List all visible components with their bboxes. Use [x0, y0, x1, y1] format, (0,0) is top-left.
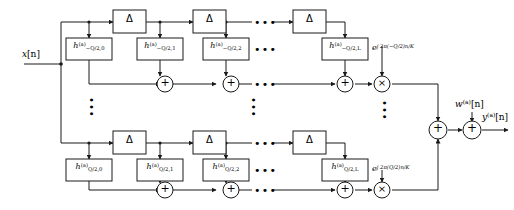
ellipsis-bot-delayline: ••• — [254, 137, 277, 150]
filter-label-bot-1: h(a)Q/2,1 — [137, 163, 183, 172]
filter-label-bot-2: h(a)Q/2,2 — [203, 163, 249, 172]
adder-glyph-bot-1: + — [157, 183, 173, 194]
adder-glyph-bot-2: + — [223, 183, 239, 194]
ellipsis-top-delayline: ••• — [254, 16, 277, 29]
ellipsis-branches-left: ••• — [86, 97, 97, 118]
ellipsis-top-filters: ••• — [254, 43, 277, 56]
delay-label-bot-2: Δ — [193, 135, 226, 145]
filter-label-top-2: h(a)−Q/2,2 — [203, 42, 249, 51]
filter-label-top-0: h(a)−Q/2,0 — [66, 42, 112, 51]
multiplier-glyph-top: × — [374, 78, 390, 88]
ellipsis-branches-right: ••• — [379, 100, 390, 121]
delay-label-top-2: Δ — [193, 14, 226, 24]
delay-label-bot-1: Δ — [113, 135, 146, 145]
ellipsis-bot-sumline: ••• — [254, 184, 277, 197]
output-signal-label: y(a)[n] — [482, 112, 508, 122]
input-junction — [59, 62, 63, 66]
ellipsis-top-sumline: ••• — [254, 78, 277, 91]
ellipsis-branches-mid: ••• — [248, 97, 259, 118]
input-signal-label: x[n] — [22, 50, 40, 59]
filter-label-bot-0: h(a)Q/2,0 — [66, 163, 112, 172]
filter-label-bot-L: h(a)Q/2,L — [322, 163, 368, 172]
delay-label-bot-L: Δ — [293, 135, 326, 145]
exponential-label-bot: ej 2π(Q/2)n/K — [372, 165, 410, 173]
delay-label-top-L: Δ — [293, 14, 326, 24]
adder-glyph-bot-L: + — [337, 183, 353, 194]
delay-label-top-1: Δ — [113, 14, 146, 24]
adder-glyph-noise: + — [463, 122, 481, 134]
adder-glyph-top-L: + — [337, 77, 353, 88]
exponential-label-top: ej 2π(−Q/2)n/K — [372, 44, 414, 52]
noise-signal-label: w(a)[n] — [455, 99, 484, 109]
adder-glyph-top-2: + — [223, 77, 239, 88]
adder-glyph-top-1: + — [157, 77, 173, 88]
block-diagram: x[n] Δ Δ Δ Δ Δ Δ h(a)−Q/2,0 h(a)−Q/2,1 h… — [0, 0, 514, 210]
ellipsis-bot-filters: ••• — [254, 164, 277, 177]
adder-glyph-combine: + — [429, 122, 447, 134]
filter-label-top-1: h(a)−Q/2,1 — [137, 42, 183, 51]
multiplier-glyph-bot: × — [374, 184, 390, 194]
filter-label-top-L: h(a)−Q/2,L — [322, 42, 368, 51]
